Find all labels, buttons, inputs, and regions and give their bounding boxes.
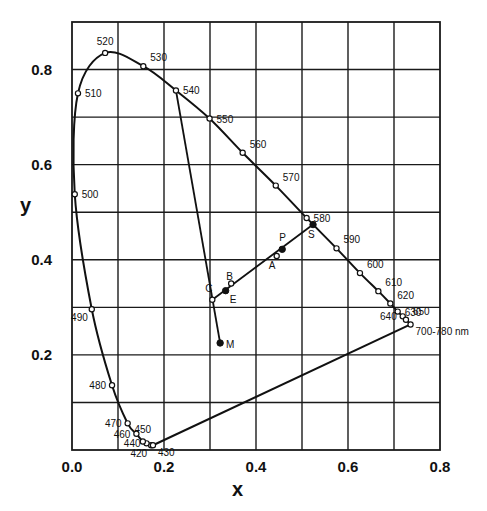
wavelength-marker bbox=[89, 307, 94, 312]
point-m-label: M bbox=[226, 339, 234, 350]
wavelength-marker bbox=[75, 91, 80, 96]
line-of-purples bbox=[153, 324, 411, 445]
chromaticity-diagram: 4204304404504604704804905005105205305405… bbox=[0, 0, 487, 511]
y-tick-label: 0.2 bbox=[31, 346, 52, 363]
wavelength-marker bbox=[173, 88, 178, 93]
wavelength-marker bbox=[109, 383, 114, 388]
wavelength-label: 700-780 nm bbox=[416, 326, 469, 337]
wavelength-label: 510 bbox=[85, 88, 102, 99]
wavelength-marker bbox=[334, 246, 339, 251]
wavelength-label: 430 bbox=[158, 447, 175, 458]
y-tick-label: 0.8 bbox=[31, 61, 52, 78]
wavelength-marker bbox=[388, 301, 393, 306]
wavelength-marker bbox=[357, 270, 362, 275]
wavelength-label: 600 bbox=[367, 259, 384, 270]
y-axis-title: y bbox=[20, 194, 32, 216]
wavelength-label: 580 bbox=[314, 213, 331, 224]
wavelength-label: 560 bbox=[250, 139, 267, 150]
wavelength-label: 490 bbox=[71, 312, 88, 323]
x-tick-label: 0.8 bbox=[430, 458, 451, 475]
point-b-label: B bbox=[226, 271, 233, 282]
wavelength-label: 540 bbox=[183, 85, 200, 96]
wavelength-marker bbox=[125, 421, 130, 426]
wavelength-marker bbox=[103, 50, 108, 55]
wavelength-marker bbox=[376, 289, 381, 294]
wavelength-label: 610 bbox=[385, 277, 402, 288]
wavelength-marker bbox=[304, 215, 309, 220]
wavelength-label: 590 bbox=[344, 234, 361, 245]
wavelength-marker bbox=[140, 439, 145, 444]
point-c-marker bbox=[210, 297, 215, 302]
wavelength-marker bbox=[408, 322, 413, 327]
point-a-label: A bbox=[269, 260, 276, 271]
wavelength-marker bbox=[150, 443, 155, 448]
point-e-marker bbox=[222, 287, 228, 293]
y-tick-label: 0.4 bbox=[31, 251, 53, 268]
x-tick-label: 0.0 bbox=[62, 458, 83, 475]
x-axis-title: x bbox=[232, 478, 243, 500]
point-e-label: E bbox=[230, 294, 237, 305]
y-tick-label: 0.6 bbox=[31, 156, 52, 173]
wavelength-marker bbox=[141, 64, 146, 69]
wavelength-marker bbox=[403, 317, 408, 322]
labels: 4204304404504604704804905005105205305405… bbox=[71, 36, 469, 459]
wavelength-label: 650 bbox=[413, 306, 430, 317]
wavelength-marker bbox=[72, 192, 77, 197]
tick-labels: 0.00.20.40.60.80.20.40.60.8 bbox=[31, 61, 450, 475]
point-p-marker bbox=[279, 246, 285, 252]
spectral-locus-curve bbox=[73, 52, 410, 445]
wavelength-label: 480 bbox=[89, 380, 106, 391]
points bbox=[72, 50, 413, 448]
wavelength-label: 520 bbox=[97, 36, 114, 47]
x-tick-label: 0.2 bbox=[154, 458, 175, 475]
point-m-marker bbox=[217, 340, 223, 346]
wavelength-label: 420 bbox=[130, 448, 147, 459]
grid bbox=[72, 22, 440, 450]
wavelength-label: 530 bbox=[150, 52, 167, 63]
construction-line bbox=[176, 90, 220, 343]
wavelength-label: 460 bbox=[114, 429, 131, 440]
wavelength-label: 470 bbox=[105, 418, 122, 429]
point-s-label: S bbox=[308, 229, 315, 240]
wavelength-marker bbox=[273, 183, 278, 188]
point-b-marker bbox=[229, 281, 234, 286]
wavelength-label: 550 bbox=[217, 114, 234, 125]
point-c-label: C bbox=[205, 283, 212, 294]
wavelength-marker bbox=[207, 116, 212, 121]
wavelength-label: 640 bbox=[380, 311, 397, 322]
point-p-label: P bbox=[279, 232, 286, 243]
construction-lines bbox=[176, 90, 313, 343]
point-a-marker bbox=[274, 253, 279, 258]
wavelength-marker bbox=[240, 150, 245, 155]
wavelength-label: 570 bbox=[283, 172, 300, 183]
wavelength-label: 500 bbox=[82, 189, 99, 200]
wavelength-label: 440 bbox=[124, 438, 141, 449]
x-tick-label: 0.4 bbox=[246, 458, 268, 475]
x-tick-label: 0.6 bbox=[338, 458, 359, 475]
wavelength-label: 450 bbox=[134, 424, 151, 435]
wavelength-label: 620 bbox=[397, 290, 414, 301]
spectral-locus bbox=[73, 52, 410, 445]
